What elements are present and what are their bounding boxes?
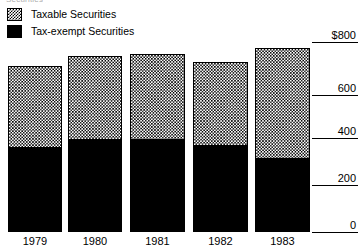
y-tick-label-200: 200 (308, 173, 356, 184)
chart-container: Securities Taxable Securities Tax-exempt… (0, 0, 359, 250)
bar-segment-tax-exempt (255, 159, 310, 232)
bar-1979 (8, 66, 62, 232)
bar-segment-tax-exempt (8, 148, 62, 232)
x-axis-label-1981: 1981 (130, 236, 185, 247)
y-tick-0 (312, 232, 358, 233)
y-tick-label-800: $800 (308, 30, 356, 41)
bar-segment-taxable (68, 56, 122, 140)
bar-segment-tax-exempt (130, 140, 185, 232)
y-tick-400 (312, 138, 358, 139)
x-axis-label-1983: 1983 (255, 236, 310, 247)
bar-segment-tax-exempt (193, 146, 248, 232)
bar-1983 (255, 48, 310, 232)
bar-1980 (68, 56, 122, 232)
bar-1981 (130, 54, 185, 232)
y-tick-label-0: 0 (308, 220, 356, 231)
x-axis-label-1979: 1979 (8, 236, 62, 247)
y-tick-600 (312, 95, 358, 96)
bar-segment-taxable (130, 54, 185, 140)
x-axis-label-1980: 1980 (68, 236, 122, 247)
y-tick-800 (312, 42, 358, 43)
y-tick-200 (312, 185, 358, 186)
bar-segment-tax-exempt (68, 140, 122, 232)
y-tick-label-400: 400 (308, 126, 356, 137)
bar-segment-taxable (255, 48, 310, 159)
bar-segment-taxable (193, 62, 248, 146)
plot-area: $800 600 400 200 0 1979 1980 1981 1982 1… (0, 0, 359, 250)
bar-1982 (193, 62, 248, 232)
x-axis-label-1982: 1982 (193, 236, 248, 247)
y-tick-label-600: 600 (308, 83, 356, 94)
bar-segment-taxable (8, 66, 62, 148)
